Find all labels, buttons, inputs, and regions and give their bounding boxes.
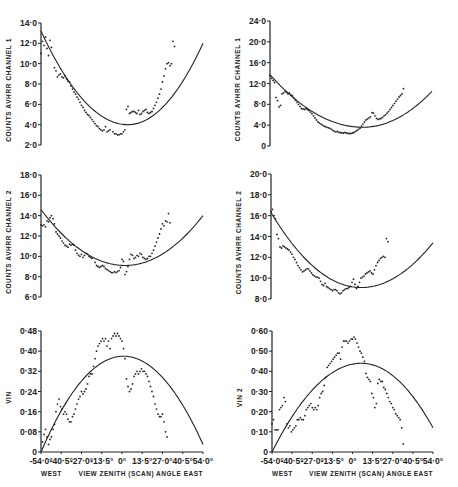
y-axis-title: VIN 2 bbox=[236, 388, 243, 407]
y-tick-label: 10·0 bbox=[20, 59, 37, 69]
x-tick-label: 27·0° bbox=[152, 456, 173, 466]
y-tick-label: 6·0 bbox=[25, 99, 38, 109]
x-east-label: EAST bbox=[184, 470, 203, 477]
y-tick-label: 0·10 bbox=[251, 427, 268, 437]
x-tick-label: 54·0° bbox=[423, 456, 444, 466]
panel-D: 8·010·012·014·016·018·020·0COUNTS AVHRR … bbox=[235, 169, 433, 304]
y-tick-label: 2·0 bbox=[25, 140, 38, 150]
y-tick-label: 18·0 bbox=[20, 170, 37, 180]
x-west-label: WEST bbox=[272, 470, 293, 477]
y-tick-label: 14·0 bbox=[250, 232, 267, 242]
y-tick-label: 20·0 bbox=[250, 169, 267, 179]
panel-A: 2·04·06·08·010·012·014·0COUNTS AVHRR CHA… bbox=[5, 18, 203, 150]
x-axis-title: VIEW ZENITH (SCAN) ANGLE bbox=[309, 470, 412, 478]
scatter-points bbox=[42, 333, 168, 446]
y-tick-label: 14·0 bbox=[20, 18, 37, 28]
y-tick-label: 18·0 bbox=[250, 190, 267, 200]
fit-curve bbox=[271, 213, 433, 288]
scatter-points bbox=[269, 75, 404, 135]
y-tick-label: 12·0 bbox=[20, 38, 37, 48]
y-tick-label: 0·32 bbox=[20, 366, 37, 376]
scatter-points bbox=[40, 213, 171, 276]
scatter-points bbox=[271, 336, 404, 445]
y-tick-label: 12·0 bbox=[20, 231, 37, 241]
y-tick-label: 4·0 bbox=[25, 120, 38, 130]
x-tick-label: 27·0° bbox=[383, 456, 404, 466]
panel-E: 00·080·160·240·320·400·48VIN-54·0°-40·5°… bbox=[5, 326, 214, 478]
y-tick-label: 0·48 bbox=[20, 326, 37, 336]
y-tick-label: 0·60 bbox=[251, 326, 268, 336]
y-tick-label: 16·0 bbox=[250, 211, 267, 221]
y-axis-title: COUNTS AVHRR CHANNEL 2 bbox=[235, 191, 242, 295]
x-tick-label: -13·5° bbox=[90, 456, 114, 466]
scatter-points bbox=[40, 36, 175, 135]
y-tick-label: 12·0 bbox=[249, 79, 266, 89]
x-east-label: EAST bbox=[414, 470, 433, 477]
y-tick-label: 0·24 bbox=[20, 387, 37, 397]
y-tick-label: 0·30 bbox=[251, 387, 268, 397]
y-tick-label: 14·0 bbox=[20, 211, 37, 221]
y-tick-label: 0·16 bbox=[20, 407, 37, 417]
y-axis-title: VIN bbox=[5, 391, 12, 404]
y-tick-label: 0·08 bbox=[20, 427, 37, 437]
x-tick-label: 0° bbox=[348, 456, 357, 466]
x-tick-label: 13·5° bbox=[132, 456, 153, 466]
y-tick-label: 10·0 bbox=[250, 273, 267, 283]
fit-curve bbox=[270, 75, 432, 128]
figure-canvas: 2·04·06·08·010·012·014·0COUNTS AVHRR CHA… bbox=[0, 0, 458, 487]
y-tick-label: 16·0 bbox=[249, 58, 266, 68]
y-tick-label: 4·0 bbox=[254, 120, 267, 130]
y-tick-label: 24·0 bbox=[249, 16, 266, 26]
y-tick-label: 20·0 bbox=[249, 37, 266, 47]
y-tick-label: 0·40 bbox=[251, 366, 268, 376]
y-tick-label: 10·0 bbox=[20, 251, 37, 261]
y-tick-label: 12·0 bbox=[250, 252, 267, 262]
y-tick-label: 8·0 bbox=[254, 99, 267, 109]
panel-B: 04·08·012·016·020·024·0COUNTS AVHRR CHAN… bbox=[234, 16, 432, 151]
y-tick-label: 0·50 bbox=[251, 346, 268, 356]
panel-F: 00·100·200·300·400·500·60VIN 2-54·0°-40·… bbox=[236, 326, 444, 478]
x-tick-label: -13·5° bbox=[321, 456, 345, 466]
y-tick-label: 0 bbox=[261, 141, 266, 151]
y-tick-label: 8·0 bbox=[255, 294, 268, 304]
y-tick-label: 8·0 bbox=[25, 272, 38, 282]
fit-curve bbox=[41, 356, 203, 452]
y-axis-title: COUNTS AVHRR CHANNEL 2 bbox=[5, 190, 12, 294]
y-axis-title: COUNTS AVHRR CHANNEL 1 bbox=[5, 38, 12, 142]
fit-curve bbox=[41, 31, 203, 125]
y-tick-label: 0·40 bbox=[20, 346, 37, 356]
y-tick-label: 16·0 bbox=[20, 190, 37, 200]
panel-C: 6·08·010·012·014·016·018·0COUNTS AVHRR C… bbox=[5, 170, 203, 302]
x-tick-label: 40·5° bbox=[403, 456, 424, 466]
x-tick-label: 13·5° bbox=[362, 456, 383, 466]
y-tick-label: 6·0 bbox=[25, 292, 38, 302]
x-tick-label: 54·0° bbox=[193, 456, 214, 466]
y-axis-title: COUNTS AVHRR CHANNEL 1 bbox=[234, 38, 241, 142]
y-tick-label: 8·0 bbox=[25, 79, 38, 89]
fit-curve bbox=[41, 210, 203, 266]
x-west-label: WEST bbox=[41, 470, 62, 477]
x-tick-label: 40·5° bbox=[173, 456, 194, 466]
x-tick-label: 0° bbox=[118, 456, 127, 466]
x-axis-title: VIEW ZENITH (SCAN) ANGLE bbox=[79, 470, 182, 478]
fit-curve bbox=[272, 363, 433, 452]
scatter-points bbox=[270, 209, 389, 295]
y-tick-label: 0·20 bbox=[251, 407, 268, 417]
